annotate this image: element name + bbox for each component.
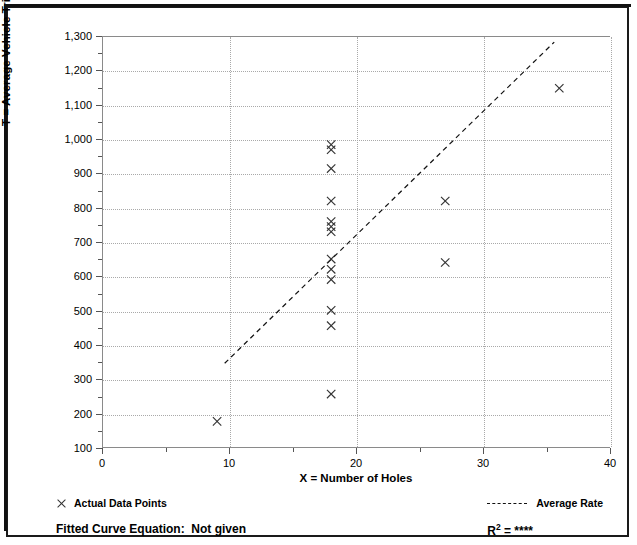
y-axis-title: T = Average Vehicle Trip Ends (0, 0, 12, 158)
x-marker-icon (56, 499, 65, 508)
x-tick-mark-minor (293, 448, 294, 452)
x-tick-mark (483, 448, 484, 454)
data-point-marker (327, 322, 335, 330)
data-point-marker (441, 197, 449, 205)
y-tick-label: 1,200 (40, 64, 92, 76)
data-point-marker (327, 390, 335, 398)
x-tick-label: 0 (82, 457, 122, 469)
y-tick-label: 1,000 (40, 133, 92, 145)
y-tick-label: 400 (40, 339, 92, 351)
data-point-marker (327, 140, 335, 148)
y-tick-label: 200 (40, 408, 92, 420)
actual-data-points (213, 84, 564, 425)
legend-item-average-rate: Average Rate (487, 497, 603, 509)
y-tick-label: 600 (40, 270, 92, 282)
data-point-marker (327, 197, 335, 205)
data-point-marker (327, 164, 335, 172)
x-tick-mark (229, 448, 230, 454)
y-tick-label: 100 (40, 442, 92, 454)
y-tick-label: 500 (40, 305, 92, 317)
y-tick-label: 1,300 (40, 30, 92, 42)
footer: Fitted Curve Equation: Not given R2 = **… (8, 522, 631, 545)
data-point-marker (555, 84, 563, 92)
fitted-curve-equation: Fitted Curve Equation: Not given (56, 522, 246, 536)
data-point-marker (327, 255, 335, 263)
x-tick-label: 30 (463, 457, 503, 469)
r-squared-value: R2 = **** (487, 522, 533, 538)
legend-label-average-rate: Average Rate (536, 497, 603, 509)
average-rate-trendline (225, 42, 555, 363)
x-tick-mark-minor (420, 448, 421, 452)
chart-page: T = Average Vehicle Trip Ends 1002003004… (0, 0, 637, 545)
x-tick-mark (356, 448, 357, 454)
data-point-marker (327, 265, 335, 273)
x-tick-mark (102, 448, 103, 454)
x-tick-label: 40 (590, 457, 630, 469)
data-point-marker (441, 258, 449, 266)
x-tick-mark (610, 448, 611, 454)
data-point-marker (213, 417, 221, 425)
legend-item-actual-points: Actual Data Points (56, 497, 167, 509)
data-point-marker (327, 275, 335, 283)
trendline-segment (225, 42, 555, 363)
y-tick-label: 300 (40, 373, 92, 385)
legend: Actual Data Points Average Rate (8, 497, 631, 517)
page-frame: T = Average Vehicle Trip Ends 1002003004… (6, 6, 629, 537)
r-squared-rest: = **** (501, 524, 533, 538)
data-layer (103, 37, 610, 447)
x-tick-mark-minor (166, 448, 167, 452)
y-tick-label: 900 (40, 167, 92, 179)
plot-area (102, 36, 610, 448)
legend-label-actual-points: Actual Data Points (74, 497, 167, 509)
y-tick-label: 700 (40, 236, 92, 248)
dashed-line-icon (487, 503, 527, 504)
x-axis-title: X = Number of Holes (102, 472, 610, 484)
gridline-vertical (611, 37, 612, 447)
x-tick-mark-minor (547, 448, 548, 452)
data-point-marker (327, 217, 335, 225)
data-point-marker (327, 306, 335, 314)
y-tick-label: 800 (40, 202, 92, 214)
x-tick-label: 20 (336, 457, 376, 469)
x-tick-label: 10 (209, 457, 249, 469)
y-tick-label: 1,100 (40, 99, 92, 111)
r-squared-base: R (487, 524, 496, 538)
